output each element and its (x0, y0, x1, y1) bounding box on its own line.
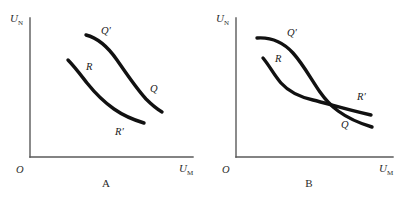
panel-b-label-r-prime: R′ (356, 91, 366, 102)
panel-a-label-q-prime: Q′ (101, 25, 112, 36)
panel-b-y-axis-label: UN (216, 12, 229, 27)
panel-b-x-axis-label: UM (379, 162, 394, 177)
panel-a-y-axis-subscript: N (18, 19, 23, 27)
panel-a-x-axis-subscript: M (187, 169, 194, 177)
panel-b-label-q-prime: Q′ (287, 27, 298, 38)
panel-b-origin-label: O (222, 164, 230, 175)
panel-b-label-q: Q (341, 119, 349, 130)
panel-a-label-r-prime: R′ (114, 126, 124, 137)
panel-a-curve-rr-prime (68, 60, 144, 123)
panel-a-curve-qq-prime (86, 35, 162, 112)
panel-a-label-r: R (85, 61, 93, 72)
panel-b-x-axis-subscript: M (387, 169, 394, 177)
panel-a-origin-label: O (16, 164, 24, 175)
figure-root: UN UM O Q′ Q R R′ A UN UM (0, 0, 411, 197)
panel-b-label-r: R (274, 53, 282, 64)
panel-a-y-axis-label: UN (10, 12, 23, 27)
panel-b-y-axis-subscript: N (224, 19, 229, 27)
panel-a: UN UM O Q′ Q R R′ A (0, 0, 205, 197)
panel-a-caption: A (102, 177, 110, 189)
panel-a-x-axis-label: UM (179, 162, 194, 177)
panel-b: UN UM O Q′ Q R R′ B (205, 0, 411, 197)
panel-b-curve-qq-prime (257, 38, 372, 127)
panel-a-label-q: Q (150, 83, 158, 94)
panel-b-caption: B (305, 177, 312, 189)
